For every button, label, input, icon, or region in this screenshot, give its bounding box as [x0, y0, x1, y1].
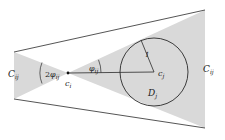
label-apex: ci — [65, 79, 71, 89]
label-radius: 1 — [145, 51, 149, 59]
left-cone-region — [14, 52, 68, 99]
apex-point — [67, 72, 70, 75]
double-cone-diagram: Cij 2φij ci φij 1 cj Dj Cij — [0, 0, 225, 140]
